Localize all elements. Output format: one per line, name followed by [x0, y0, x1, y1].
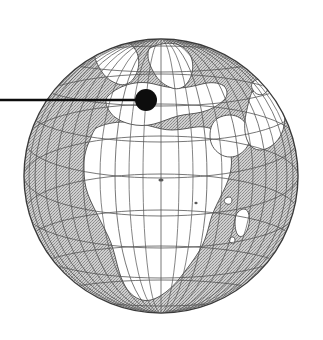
inland-lake-victoria: [194, 202, 197, 204]
landmass-island-1: [224, 197, 232, 204]
landmass-arabia: [210, 115, 250, 157]
globe-illustration: [0, 0, 323, 340]
globe-figure-root: Orthographic globe locator map: [0, 0, 323, 340]
location-marker-dot[interactable]: [135, 89, 157, 111]
